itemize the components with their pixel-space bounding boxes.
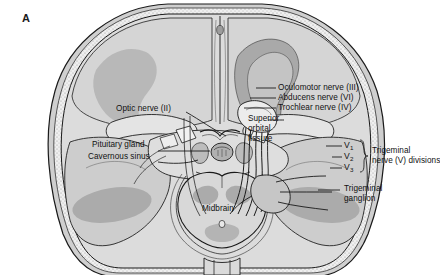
figure-panel-a: A Oculomotor nerve (III) Abducens nerve … bbox=[0, 0, 440, 275]
label-v3-division: V3 bbox=[344, 162, 353, 172]
label-superior-orbital-fissure-line3: fissure bbox=[248, 134, 272, 144]
label-trigeminal-divisions-line2: nerve (V) divisions bbox=[372, 156, 440, 166]
label-optic-nerve: Optic nerve (II) bbox=[116, 104, 171, 114]
label-abducens-nerve: Abducens nerve (VI) bbox=[278, 93, 354, 103]
label-trochlear-nerve: Trochlear nerve (IV) bbox=[278, 103, 352, 113]
label-v2-division: V2 bbox=[344, 151, 353, 161]
panel-letter: A bbox=[22, 12, 30, 24]
label-midbrain: Midbrain bbox=[202, 204, 234, 214]
cranial-anatomy-illustration bbox=[0, 0, 440, 275]
label-cavernous-sinus: Cavernous sinus bbox=[88, 152, 150, 162]
label-v1-division: V1 bbox=[344, 140, 353, 150]
label-oculomotor-nerve: Oculomotor nerve (III) bbox=[278, 83, 359, 93]
label-superior-orbital-fissure-line1: Superior bbox=[248, 114, 279, 124]
label-trigeminal-ganglion-line2: ganglion bbox=[344, 194, 375, 204]
label-pituitary-gland: Pituitary gland bbox=[92, 140, 145, 150]
label-superior-orbital-fissure-line2: orbital bbox=[248, 124, 271, 134]
label-trigeminal-divisions-line1: Trigeminal bbox=[372, 146, 410, 156]
label-trigeminal-ganglion-line1: Trigeminal bbox=[344, 184, 382, 194]
